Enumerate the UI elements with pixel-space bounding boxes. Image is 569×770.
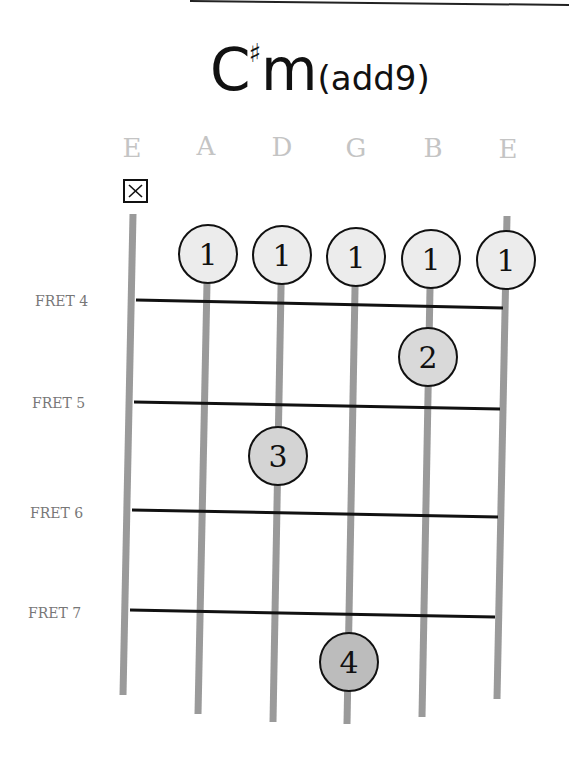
svg-text:3: 3 bbox=[268, 439, 287, 474]
fret-label-4: FRET 4 bbox=[35, 293, 88, 309]
string-label-e-low: E bbox=[123, 133, 142, 163]
finger-dot: 1 bbox=[253, 226, 311, 284]
string-label-d: D bbox=[272, 132, 293, 162]
svg-text:2: 2 bbox=[418, 340, 437, 375]
fret-label-6: FRET 6 bbox=[30, 505, 83, 521]
string-label-a: A bbox=[196, 131, 217, 161]
svg-text:1: 1 bbox=[421, 242, 440, 277]
string-2 bbox=[198, 235, 208, 714]
finger-dot: 4 bbox=[320, 633, 378, 691]
svg-text:1: 1 bbox=[346, 240, 365, 275]
finger-dot: 1 bbox=[327, 228, 385, 286]
muted-string-icon bbox=[124, 180, 147, 202]
finger-dot: 1 bbox=[477, 231, 535, 289]
fret-line-4 bbox=[136, 300, 503, 308]
fret-line-7 bbox=[130, 610, 495, 617]
finger-dot: 1 bbox=[179, 225, 237, 283]
chord-diagram: E A D G B E FRET 4 FRET 5 FRET 6 FRET 7 … bbox=[0, 0, 569, 770]
svg-text:1: 1 bbox=[198, 237, 217, 272]
finger-dot: 3 bbox=[249, 427, 307, 485]
svg-text:1: 1 bbox=[496, 243, 515, 278]
svg-text:4: 4 bbox=[339, 645, 358, 680]
string-label-e-high: E bbox=[499, 134, 518, 164]
fret-line-6 bbox=[132, 510, 498, 517]
string-label-g: G bbox=[346, 133, 367, 163]
fret-line-5 bbox=[134, 402, 500, 409]
string-label-b: B bbox=[423, 133, 442, 163]
finger-dot: 1 bbox=[402, 230, 460, 288]
fret-label-7: FRET 7 bbox=[28, 605, 81, 621]
fret-label-5: FRET 5 bbox=[32, 395, 85, 411]
finger-dot: 2 bbox=[399, 328, 457, 386]
top-divider bbox=[190, 1, 569, 5]
svg-text:1: 1 bbox=[272, 238, 291, 273]
strings bbox=[123, 214, 507, 724]
string-1 bbox=[123, 214, 133, 695]
